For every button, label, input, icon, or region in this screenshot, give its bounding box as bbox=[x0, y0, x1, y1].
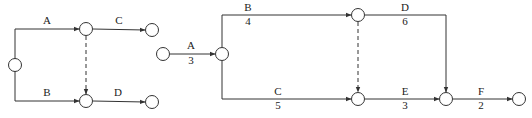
event-node-m1 bbox=[157, 48, 170, 61]
activity-duration-c-right: 5 bbox=[275, 99, 281, 111]
activity-label-d-left: D bbox=[114, 86, 122, 98]
event-node-n5 bbox=[146, 96, 159, 109]
event-node-n1 bbox=[9, 59, 22, 72]
activity-network-svg: ABCDA3B4C5D6E3F2 bbox=[0, 0, 532, 118]
activity-arrow-c-right bbox=[222, 61, 351, 99]
event-node-m6 bbox=[513, 93, 526, 106]
activity-arrow-d-left bbox=[93, 101, 145, 102]
event-node-n4 bbox=[80, 95, 93, 108]
activity-duration-d-right: 6 bbox=[402, 15, 408, 27]
activity-duration-e-right: 3 bbox=[402, 99, 408, 111]
event-node-m5 bbox=[440, 93, 453, 106]
activity-duration-a-right: 3 bbox=[188, 54, 194, 66]
activity-label-b-right: B bbox=[244, 1, 251, 13]
activity-duration-b-right: 4 bbox=[245, 15, 251, 27]
labels-layer: ABCDA3B4C5D6E3F2 bbox=[43, 1, 484, 111]
event-node-n3 bbox=[146, 24, 159, 37]
activity-arrow-c-left bbox=[93, 29, 145, 30]
activity-label-b-left: B bbox=[43, 86, 50, 98]
activity-label-c-left: C bbox=[115, 14, 122, 26]
activity-duration-f-right: 2 bbox=[478, 99, 484, 111]
activity-arrow-a-left bbox=[15, 29, 79, 59]
event-node-m2 bbox=[216, 48, 229, 61]
activity-label-a-right: A bbox=[187, 39, 195, 51]
activity-label-f-right: F bbox=[478, 85, 484, 97]
activity-label-d-right: D bbox=[401, 1, 409, 13]
activity-arrow-b-right bbox=[222, 15, 351, 47]
event-node-m4 bbox=[352, 93, 365, 106]
event-node-n2 bbox=[80, 23, 93, 36]
network-diagrams: ABCDA3B4C5D6E3F2 bbox=[0, 0, 532, 118]
event-node-m3 bbox=[352, 9, 365, 22]
activity-label-a-left: A bbox=[43, 14, 51, 26]
activity-label-c-right: C bbox=[274, 85, 281, 97]
activity-label-e-right: E bbox=[402, 85, 409, 97]
